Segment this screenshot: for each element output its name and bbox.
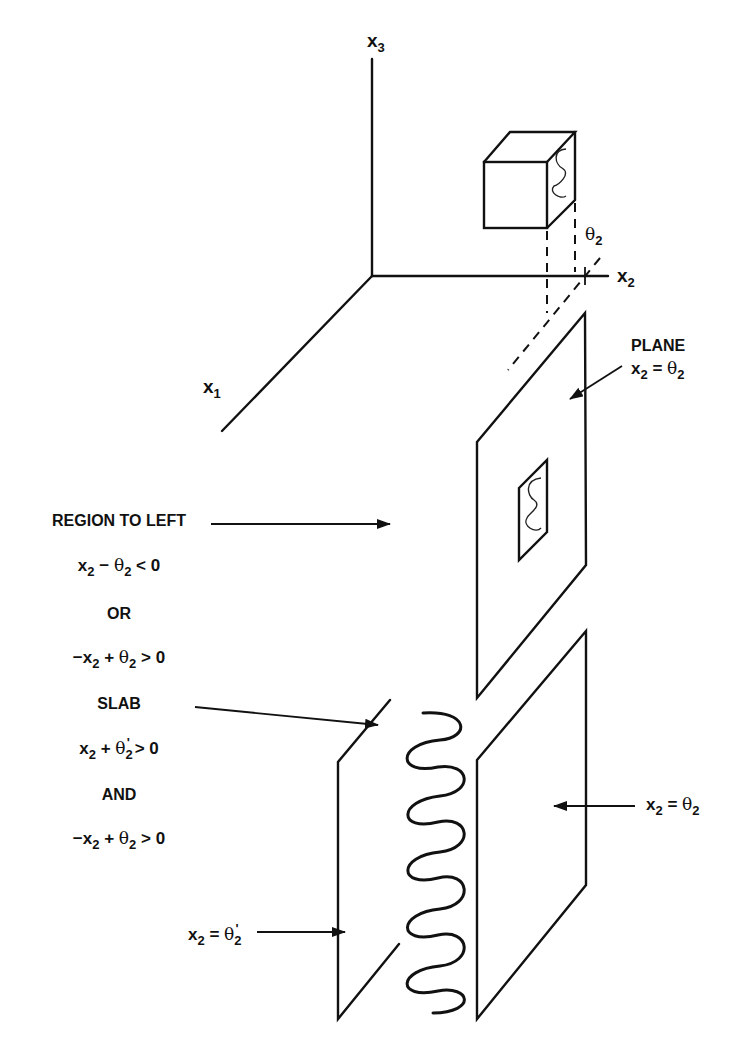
theta2-tick-label: θ2 [585,224,602,248]
cube-front-face [484,162,547,228]
region-inequality-2: −x2 + θ2 > 0 [73,647,165,671]
upper-plane [477,313,586,698]
or-label: OR [107,605,131,622]
slab [338,631,586,1019]
slab-right-plane-label: x2 = θ2 [646,794,700,818]
plane-inner-window [519,460,547,560]
slab-title: SLAB [97,695,141,712]
x3-axis-label: x3 [367,30,385,55]
cube-side-wave [552,149,566,197]
plane-outline [477,313,586,698]
slab-wave [407,713,464,1013]
slab-inequality-2: −x2 + θ2 > 0 [73,828,165,852]
cube [484,132,575,228]
cube-top-edges [484,132,575,162]
slab-arrow [195,707,378,725]
x1-axis-label: x1 [203,376,221,401]
plane-label-equation: x2 = θ2 [631,358,685,382]
inner-window-wave [526,478,541,530]
region-description: REGION TO LEFT x2 − θ2 < 0 OR −x2 + θ2 >… [52,512,390,852]
slab-left-plane-top [338,700,399,1019]
slab-inequality-1: x2 + θ2' > 0 [79,735,159,762]
plane-label-title: PLANE [631,337,686,354]
region-title: REGION TO LEFT [52,512,186,529]
x1-axis [222,276,372,431]
x2-axis-label: x2 [617,265,635,290]
coordinate-axes [222,59,608,431]
slab-right-plane [477,631,586,1019]
hyperplane-slab-diagram: x3 x2 x1 θ2 PLANE x2 = θ2 REGION TO LEFT [0,0,741,1048]
and-label: AND [102,786,137,803]
plane-label-arrow [570,366,622,399]
region-inequality-1: x2 − θ2 < 0 [78,555,160,579]
slab-left-plane-label: x2 = θ2' [188,921,242,948]
